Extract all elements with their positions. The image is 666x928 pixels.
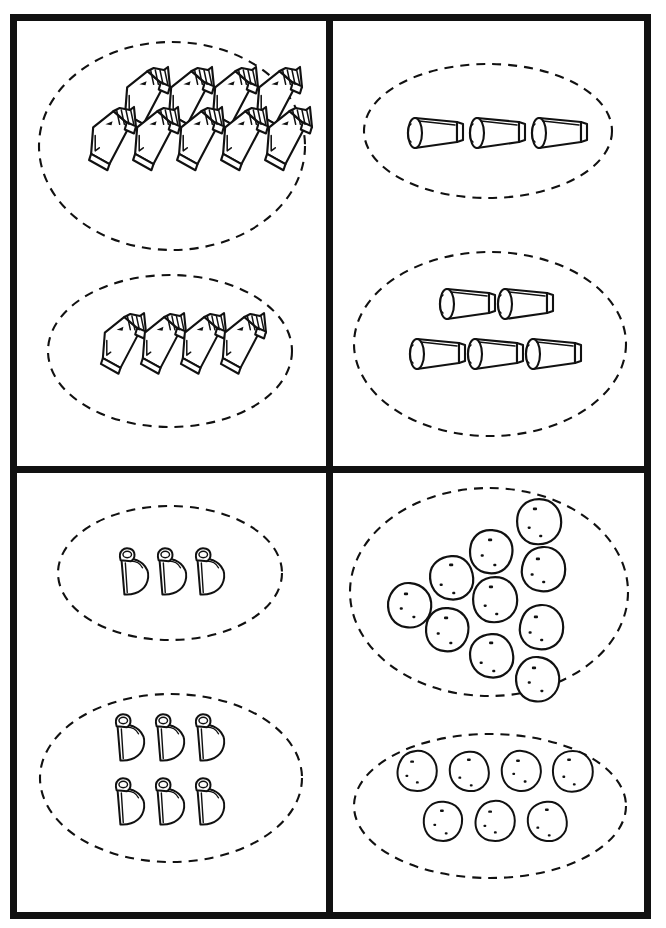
dashed-oval [39,42,305,250]
purse-icon [156,714,184,760]
potato-eye [532,667,536,670]
potato-eye [449,564,453,567]
object-instance [156,714,184,760]
object-instance [116,714,144,760]
object-instance [196,548,224,594]
potato-eye [404,593,408,596]
cup-icon [410,339,465,369]
potato-icon [470,530,512,573]
potato-eye [534,616,538,619]
object-instance [120,548,148,594]
potato-eye [483,825,486,827]
potato-eye [528,681,531,684]
potato-eye [481,554,484,557]
object-instance [473,577,517,622]
potato-eye [433,824,436,826]
potato-icon [522,547,565,591]
panel-bottom-right [333,473,644,912]
potato-icon [426,608,468,651]
book-icon [141,313,186,374]
object-instance [476,801,515,841]
object-instance [517,499,561,544]
object-instance [101,313,146,374]
potato-eye [449,642,452,645]
object-instance [450,752,489,791]
group-tr-lower [351,249,629,439]
potato-eye [440,583,443,586]
object-instance [196,714,224,760]
purse-icon [120,548,148,594]
potato-eye [529,631,532,634]
purse-icon [156,778,184,824]
purse-icon [158,548,186,594]
book-icon [89,107,136,170]
potato-eye [488,810,492,812]
potato-icon [473,577,517,622]
book-icon [101,313,146,374]
group-br-lower [351,731,629,881]
potato-eye [545,809,549,811]
panel-top-right [333,21,644,466]
group-tl-upper [35,39,310,254]
panel-bottom-left [17,473,326,912]
potato-eye [488,539,492,542]
potato-icon [430,556,473,599]
cup-icon [470,118,525,148]
object-instance [502,751,541,791]
object-instance [426,608,468,651]
potato-eye [480,661,483,664]
object-instance [516,657,559,701]
potato-eye [540,690,543,693]
potato-eye [516,759,520,761]
object-instance [470,118,525,148]
potato-eye [458,777,461,779]
potato-eye [489,586,493,589]
potato-eye [536,558,540,561]
object-instance [498,289,553,319]
potato-eye [531,573,534,576]
potato-eye [444,617,448,620]
object-instance [181,313,226,374]
panel-top-left [17,21,326,466]
potato-icon [398,751,437,791]
cup-icon [440,289,495,319]
group-bl-upper [55,503,285,643]
potato-eye [493,564,496,567]
potato-eye [533,508,537,511]
object-instance [468,339,523,369]
potato-icon [470,634,513,677]
potato-eye [489,642,493,645]
cup-icon [498,289,553,319]
group-br-upper [347,485,632,700]
object-instance [196,778,224,824]
potato-eye [437,632,440,635]
potato-icon [528,802,567,841]
potato-eye [470,784,473,786]
object-instance [408,118,463,148]
potato-icon [520,605,563,649]
purse-icon [116,714,144,760]
potato-eye [567,759,571,761]
object-instance [410,339,465,369]
group-tr-upper [361,61,616,201]
book-icon [181,313,226,374]
object-instance [116,778,144,824]
potato-eye [528,526,531,529]
object-instance [553,751,593,792]
potato-eye [524,780,527,782]
potato-icon [424,802,462,841]
object-instance [532,118,587,148]
object-instance [141,313,186,374]
purse-icon [196,548,224,594]
object-instance [522,547,565,591]
purse-icon [196,778,224,824]
potato-eye [492,670,495,673]
potato-icon [450,752,489,791]
counting-worksheet [0,0,666,928]
potato-eye [484,604,487,607]
potato-eye [495,613,498,616]
potato-eye [494,831,497,833]
potato-eye [536,827,539,829]
potato-eye [440,809,444,811]
cup-icon [532,118,587,148]
